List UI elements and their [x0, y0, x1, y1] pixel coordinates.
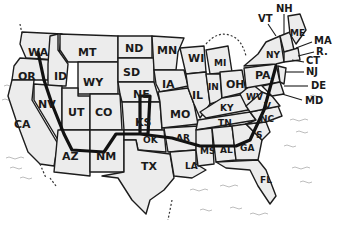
- svg-text:CT: CT: [306, 55, 320, 66]
- svg-text:SD: SD: [123, 66, 140, 79]
- svg-text:OH: OH: [226, 78, 245, 91]
- svg-text:ND: ND: [125, 42, 143, 55]
- svg-text:MT: MT: [78, 46, 97, 59]
- svg-text:VT: VT: [258, 13, 273, 24]
- svg-text:AZ: AZ: [62, 150, 79, 163]
- svg-text:WA: WA: [28, 46, 49, 59]
- svg-text:CO: CO: [95, 106, 112, 119]
- svg-text:IN: IN: [208, 82, 219, 92]
- svg-text:V: V: [264, 101, 271, 111]
- svg-text:S: S: [256, 130, 262, 140]
- svg-text:UT: UT: [68, 106, 85, 119]
- svg-text:TN: TN: [218, 118, 232, 128]
- svg-text:OK: OK: [143, 135, 159, 145]
- svg-text:ME: ME: [290, 28, 305, 38]
- svg-text:IL: IL: [192, 89, 203, 102]
- svg-text:NJ: NJ: [306, 66, 318, 77]
- svg-text:MD: MD: [305, 95, 323, 106]
- svg-text:WI: WI: [188, 52, 204, 65]
- svg-text:GA: GA: [240, 143, 254, 153]
- svg-text:NV: NV: [38, 98, 56, 111]
- svg-text:WV: WV: [246, 92, 263, 102]
- svg-text:NC: NC: [260, 114, 275, 124]
- us-map: WA OR CA ID NV MT WY UT CO AZ NM ND SD N…: [0, 0, 342, 227]
- svg-text:WY: WY: [83, 76, 104, 89]
- svg-text:CA: CA: [14, 118, 31, 131]
- svg-text:KS: KS: [135, 116, 152, 129]
- svg-text:MA: MA: [314, 35, 332, 46]
- svg-text:NY: NY: [266, 50, 281, 60]
- svg-text:DE: DE: [311, 80, 326, 91]
- svg-text:IA: IA: [162, 78, 175, 91]
- svg-text:TX: TX: [141, 160, 158, 173]
- svg-text:FL: FL: [260, 175, 272, 185]
- svg-text:MN: MN: [157, 44, 177, 57]
- svg-text:MS: MS: [200, 146, 215, 156]
- svg-text:NM: NM: [96, 150, 116, 163]
- svg-text:OR: OR: [18, 70, 36, 83]
- svg-text:PA: PA: [255, 69, 271, 82]
- svg-text:NH: NH: [276, 3, 293, 14]
- svg-text:LA: LA: [185, 161, 198, 171]
- svg-text:AR: AR: [176, 133, 190, 143]
- svg-text:MI: MI: [214, 58, 226, 68]
- svg-text:NE: NE: [133, 88, 150, 101]
- svg-text:AL: AL: [220, 145, 233, 155]
- svg-text:ID: ID: [54, 70, 67, 83]
- svg-text:KY: KY: [220, 103, 234, 113]
- svg-text:MO: MO: [170, 108, 190, 121]
